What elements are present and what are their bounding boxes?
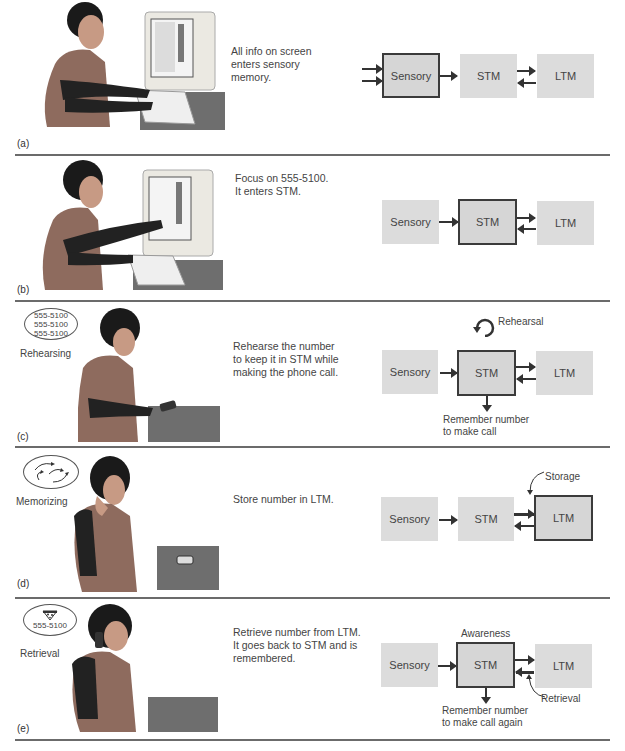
panel-e: 555-5100 Retrieval Retrieve number from … [0,599,625,739]
ltm-to-stm-arrow [517,378,536,380]
output-arrow [485,688,487,702]
stm-box: STM [458,199,517,245]
stm-to-ltm-arrow [514,513,534,516]
panel-label: (b) [17,284,29,295]
thought-bubble: 555-5100 [23,604,77,636]
activity-label: Retrieval [20,648,59,659]
panel-a: All info on screen enters sensory memory… [0,0,625,152]
ltm-box: LTM [534,495,593,541]
woman-dialing-illustration [78,308,223,442]
output-label: Remember number to make call again [442,705,528,729]
rehearsal-loop-icon [473,317,497,337]
panel-description: All info on screen enters sensory memory… [231,45,312,84]
panel-d: Memorizing Store number in LTM. Storage … [0,448,625,598]
stm-box: STM [457,350,516,396]
stm-box: STM [460,54,517,98]
sensory-to-stm-arrow [438,665,456,667]
woman-at-computer-illustration [35,2,225,130]
activity-label: Memorizing [16,496,68,507]
storage-label: Storage [545,471,580,483]
output-arrow [486,396,488,410]
sensory-to-stm-arrow [439,519,457,521]
sensory-to-stm-arrow [440,75,457,77]
woman-pointing-illustration [33,160,223,290]
sensory-box: Sensory [381,497,438,541]
ltm-box: LTM [536,351,593,395]
panel-label: (c) [17,431,29,442]
swirling-arrows-icon [31,460,71,484]
sensory-to-stm-arrow [439,221,458,223]
input-arrow [362,68,382,70]
input-arrow [362,80,382,82]
woman-thinking-illustration [72,456,222,592]
panel-description: Focus on 555-5100. It enters STM. [235,172,328,198]
panel-description: Retrieve number from LTM. It goes back t… [233,626,361,665]
pizza-icon [42,610,58,621]
sensory-box: Sensory [382,200,439,244]
ltm-box: LTM [537,201,594,245]
thought-bubble: 555-5100 555-5100 555-5100 [24,308,78,340]
stm-to-ltm-arrow [517,217,535,219]
stm-box: STM [456,642,515,688]
ltm-box: LTM [537,54,594,98]
woman-on-phone-illustration [70,604,220,732]
awareness-label: Awareness [461,628,510,640]
sensory-box: Sensory [381,643,438,687]
panel-label: (e) [17,723,29,734]
thought-bubble [23,455,79,489]
ltm-to-stm-arrow [515,525,534,527]
sensory-box: Sensory [382,350,438,394]
output-label: Remember number to make call [443,414,529,438]
stm-to-ltm-arrow [516,366,535,368]
panel-b: Focus on 555-5100. It enters STM. Sensor… [0,156,625,302]
separator [15,739,610,741]
sensory-to-stm-arrow [440,372,457,374]
sensory-box: Sensory [382,53,440,98]
retrieval-label: Retrieval [541,693,580,705]
panel-description: Store number in LTM. [233,493,334,506]
stm-box: STM [458,497,514,541]
stm-to-ltm-arrow [517,70,535,72]
activity-label: Rehearsing [20,348,71,359]
ltm-to-stm-arrow [518,82,536,84]
panel-c: 555-5100 555-5100 555-5100 Rehearsing Re… [0,302,625,448]
rehearsal-label: Rehearsal [498,316,544,328]
ltm-to-stm-arrow [518,228,536,230]
stm-to-ltm-arrow [515,659,534,661]
storage-pointer [524,470,546,496]
panel-description: Rehearse the number to keep it in STM wh… [233,340,339,379]
panel-label: (d) [17,578,29,589]
panel-label: (a) [17,138,29,149]
